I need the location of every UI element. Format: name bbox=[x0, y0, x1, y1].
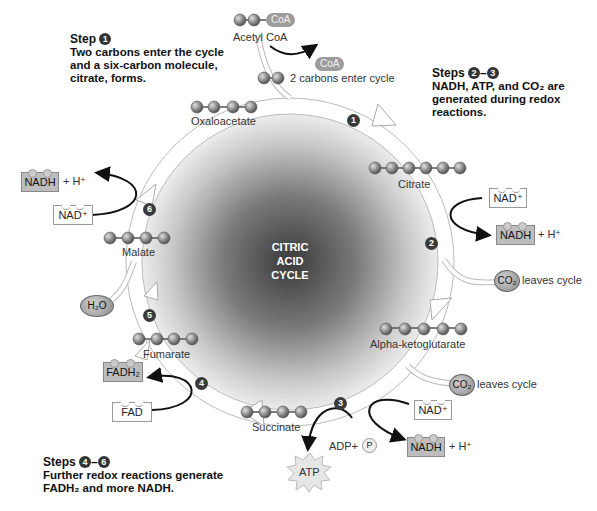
step-badge-6: 6 bbox=[143, 203, 156, 216]
succinate-label: Succinate bbox=[252, 421, 300, 433]
h-plus-step6: + H⁺ bbox=[63, 175, 86, 188]
step-badge-3: 3 bbox=[334, 397, 347, 410]
malate-label: Malate bbox=[122, 246, 155, 258]
step-badge-1: 1 bbox=[347, 114, 360, 127]
steps46-annotation: Steps 4–6 Further redox reactions genera… bbox=[43, 456, 223, 495]
adp-label: ADP+ bbox=[329, 440, 358, 452]
step-badge: 1 bbox=[99, 33, 111, 45]
citric-acid-cycle-diagram: CITRIC ACID CYCLE Step 1 Two carbons ent… bbox=[0, 0, 597, 511]
nadh-box-step3: NADH bbox=[407, 437, 445, 457]
h2o-oval: H₂O bbox=[80, 295, 114, 317]
co2-leaves-label-step3: leaves cycle bbox=[477, 378, 537, 390]
step1-annotation: Step 1 Two carbons enter the cycle and a… bbox=[70, 33, 224, 85]
nadh-box-step2: NADH bbox=[496, 225, 535, 245]
nadh-box-step6: NADH bbox=[21, 172, 59, 192]
co2-leaves-label-step2: leaves cycle bbox=[522, 274, 582, 286]
two-carbons-label: 2 carbons enter cycle bbox=[290, 72, 395, 84]
fadh2-box: FADH₂ bbox=[103, 362, 143, 382]
step-badge-5: 5 bbox=[143, 309, 156, 322]
h-plus-step3: + H⁺ bbox=[449, 440, 472, 453]
acetyl-coa-label: Acetyl CoA bbox=[233, 31, 287, 43]
coa-tag: CoA bbox=[266, 13, 295, 27]
nad-plus-box-step6: NAD⁺ bbox=[53, 205, 93, 225]
fad-box: FAD bbox=[112, 402, 152, 422]
nad-plus-box-step2: NAD⁺ bbox=[489, 188, 527, 208]
step-badge-2: 2 bbox=[425, 237, 438, 250]
step-badge-4: 4 bbox=[195, 377, 208, 390]
alpha-ketoglutarate-label: Alpha-ketoglutarate bbox=[370, 338, 465, 350]
co2-oval-step3: CO₂ bbox=[449, 374, 475, 396]
nad-plus-box-step3: NAD⁺ bbox=[414, 400, 452, 420]
fumarate-label: Fumarate bbox=[143, 348, 190, 360]
h-plus-step2: + H⁺ bbox=[538, 228, 561, 241]
steps23-annotation: Steps 2–3 NADH, ATP, and CO₂ are generat… bbox=[432, 67, 565, 119]
phosphate-circle: P bbox=[362, 438, 377, 453]
coa-released-tag: CoA bbox=[315, 57, 344, 71]
atp-label: ATP bbox=[299, 466, 320, 478]
citrate-label: Citrate bbox=[398, 178, 430, 190]
oxaloacetate-label: Oxaloacetate bbox=[191, 115, 256, 127]
co2-oval-step2: CO₂ bbox=[494, 270, 520, 292]
center-title: CITRIC ACID CYCLE bbox=[262, 240, 318, 282]
